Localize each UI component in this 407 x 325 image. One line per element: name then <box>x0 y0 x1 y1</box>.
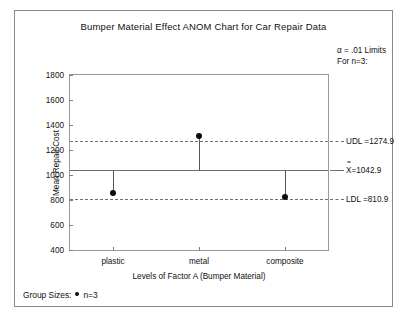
y-axis-tick <box>69 100 73 101</box>
plot-area: Mean Repair Cost 40060080010001200140016… <box>69 74 329 251</box>
chart-title: Bumper Material Effect ANOM Chart for Ca… <box>15 21 392 32</box>
y-axis-tick-label: 800 <box>50 196 64 205</box>
y-axis-tick-label: 1400 <box>46 121 64 130</box>
y-axis-tick <box>69 75 73 76</box>
x-axis-tick <box>285 247 286 251</box>
reference-label-cl: X=1042.9 <box>346 165 381 174</box>
y-axis-tick <box>69 125 73 126</box>
reference-label-ldl: LDL =810.9 <box>346 194 388 203</box>
sample-size-text: For n=3: <box>337 56 386 67</box>
data-point-marker <box>196 133 202 139</box>
y-axis-tick-label: 1600 <box>46 96 64 105</box>
y-axis-tick-label: 600 <box>50 221 64 230</box>
x-axis-tick <box>199 247 200 251</box>
data-point-stem <box>199 136 200 169</box>
reference-line-extension-udl <box>330 141 344 142</box>
x-axis-tick <box>113 247 114 251</box>
x-axis-tick-label: plastic <box>101 257 124 266</box>
group-size-value: n=3 <box>83 290 97 300</box>
y-axis-tick-label: 1000 <box>46 171 64 180</box>
reference-line-cl <box>70 170 328 171</box>
y-axis-tick <box>69 200 73 201</box>
y-axis-title: Mean Repair Cost <box>52 130 61 196</box>
y-axis-tick <box>69 225 73 226</box>
limits-annotation: α = .01 Limits For n=3: <box>337 45 386 67</box>
group-sizes-legend: Group Sizes: n=3 <box>23 290 98 300</box>
x-axis-title: Levels of Factor A (Bumper Material) <box>70 272 328 281</box>
x-axis-tick-label: composite <box>266 257 303 266</box>
y-axis-tick <box>69 175 73 176</box>
legend-marker-icon <box>75 292 79 296</box>
reference-line-extension-ldl <box>330 199 344 200</box>
y-axis-tick-label: 1200 <box>46 146 64 155</box>
y-axis-tick <box>69 150 73 151</box>
y-axis-tick-label: 400 <box>50 246 64 255</box>
data-point-stem <box>285 170 286 197</box>
x-axis-tick-label: metal <box>189 257 209 266</box>
reference-line-ldl <box>70 199 328 200</box>
data-point-marker <box>282 194 288 200</box>
reference-label-udl: UDL =1274.9 <box>346 136 394 145</box>
group-sizes-label: Group Sizes: <box>23 290 71 300</box>
y-axis-tick-label: 1800 <box>46 71 64 80</box>
y-axis-tick <box>69 250 73 251</box>
chart-card: Bumper Material Effect ANOM Chart for Ca… <box>14 10 393 307</box>
data-point-marker <box>110 190 116 196</box>
reference-line-extension-cl <box>330 170 344 171</box>
alpha-limits-text: α = .01 Limits <box>337 45 386 56</box>
